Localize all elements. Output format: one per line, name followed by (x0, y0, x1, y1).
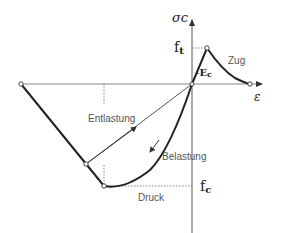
node-ft (205, 46, 209, 50)
node-unloading (84, 162, 88, 166)
ft-label: ft (174, 39, 184, 56)
loading-curve (104, 84, 192, 187)
compression-descending-branch (21, 84, 104, 186)
epsilon-label: ε (254, 90, 260, 104)
node-origin (190, 82, 194, 86)
sigma-label: σc (172, 10, 189, 25)
entlastung-label: Entlastung (88, 113, 135, 124)
node-fc (102, 184, 106, 188)
fc-label: fc (200, 178, 211, 195)
tension-curve (192, 48, 250, 84)
node-tension-end (248, 82, 252, 86)
zug-label: Zug (228, 55, 245, 66)
stress-strain-diagram: σc ft -Ec ε fc Zug Entlastung Belastung … (0, 0, 285, 233)
unloading-arrow (86, 127, 136, 164)
druck-label: Druck (138, 192, 165, 203)
ec-label: -Ec (196, 67, 212, 79)
loading-arrow (150, 140, 159, 152)
belastung-label: Belastung (162, 151, 206, 162)
node-start (19, 82, 23, 86)
